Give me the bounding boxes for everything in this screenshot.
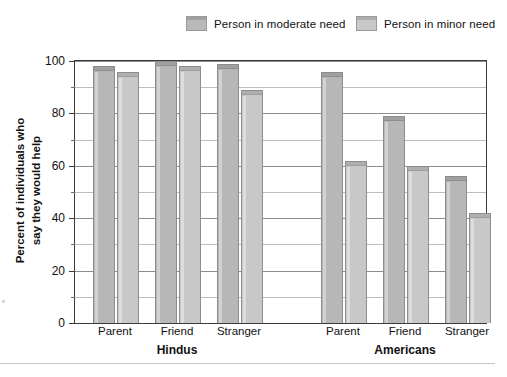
bar-shine [95,72,98,323]
ytick-30 [71,244,75,245]
bar-cap [446,177,466,181]
bar-cap [118,73,138,77]
y-axis-title-line2: say they would help [30,136,42,245]
bar-shine [219,70,222,323]
bar-shine [181,72,184,323]
ytick-label-80: 80 [52,106,65,120]
bar-americans-friend-minor [407,166,429,323]
group-label-hindus: Hindus [157,343,198,357]
bar-cap [180,67,200,71]
bar-hindus-stranger-moderate [217,64,239,323]
bar-shine [447,182,450,323]
bar-cap [94,67,114,71]
bar-cap [156,62,176,66]
ytick-50 [71,192,75,193]
bar-shine [119,78,122,324]
bar-cap [408,167,428,171]
legend-item-moderate-need: Person in moderate need [186,16,345,31]
bar-cap [242,91,262,95]
bar-hindus-parent-moderate [93,66,115,323]
bar-hindus-friend-moderate [155,61,177,323]
ytick-0 [69,323,75,324]
xtick-label-hindus-stranger: Stranger [217,325,261,337]
y-axis-title-line1: Percent of individuals who [14,118,26,264]
minor-need-swatch [356,16,377,31]
bar-hindus-friend-minor [179,66,201,323]
ytick-label-40: 40 [52,211,65,225]
bar-shine [471,219,474,323]
ytick-60 [69,166,75,167]
plot-area: 100 80 60 40 20 0 [74,60,487,324]
bar-hindus-stranger-minor [241,90,263,323]
legend-label-moderate-need: Person in moderate need [214,18,345,30]
xtick-label-americans-stranger: Stranger [445,325,489,337]
bar-americans-friend-moderate [383,116,405,323]
page-edge-mark [2,300,5,303]
bar-americans-parent-moderate [321,72,343,324]
ytick-label-20: 20 [52,264,65,278]
ytick-label-100: 100 [45,54,65,68]
ytick-20 [69,271,75,272]
ytick-70 [71,140,75,141]
bar-shine [385,122,388,323]
xtick-label-hindus-parent: Parent [98,325,132,337]
bar-shine [157,67,160,323]
moderate-need-swatch [186,16,207,31]
xtick-label-americans-parent: Parent [326,325,360,337]
bar-americans-stranger-moderate [445,176,467,323]
xtick-label-hindus-friend: Friend [161,325,194,337]
bar-americans-parent-minor [345,161,367,323]
ytick-40 [69,218,75,219]
bar-shine [347,167,350,323]
gridline-100 [75,61,486,62]
ytick-80 [69,113,75,114]
bar-shine [323,78,326,324]
bar-cap [346,162,366,166]
bar-hindus-parent-minor [117,72,139,324]
ytick-label-60: 60 [52,159,65,173]
y-axis-title: Percent of individuals who say they woul… [14,60,44,322]
chart-figure: Person in moderate need Person in minor … [0,0,507,377]
legend-item-minor-need: Person in minor need [356,16,495,31]
bar-shine [409,172,412,323]
bar-cap [470,214,490,218]
bar-shine [243,96,246,323]
bar-cap [384,117,404,121]
group-label-americans: Americans [374,343,435,357]
bar-cap [218,65,238,69]
footer-divider [0,363,495,364]
ytick-10 [71,297,75,298]
ytick-90 [71,87,75,88]
chart-legend: Person in moderate need Person in minor … [0,14,507,38]
ytick-label-0: 0 [58,316,65,330]
bar-cap [322,73,342,77]
legend-label-minor-need: Person in minor need [384,18,495,30]
xtick-label-americans-friend: Friend [389,325,422,337]
bar-americans-stranger-minor [469,213,491,323]
ytick-100 [69,61,75,62]
